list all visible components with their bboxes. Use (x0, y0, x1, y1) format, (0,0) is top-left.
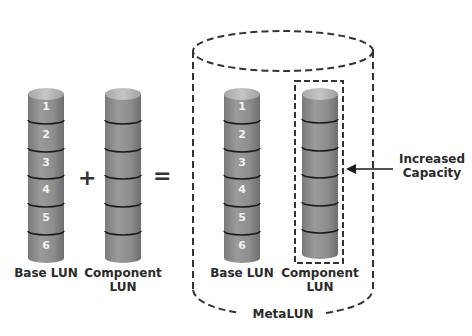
component-lun-label-line2: LUN (83, 280, 163, 294)
segment-label: 2 (224, 129, 260, 141)
metalun-component-lun-cylinder (302, 88, 338, 259)
segment-label: 3 (28, 157, 64, 169)
segment-label: 4 (224, 184, 260, 196)
plus-operator: + (78, 167, 96, 189)
callout-line2: Capacity (392, 166, 472, 180)
callout-line1: Increased (392, 152, 472, 166)
segment-label: 5 (224, 212, 260, 224)
metalun-label: MetaLUN (243, 307, 323, 321)
segment-label: 1 (28, 101, 64, 113)
metalun-base-lun-label: Base LUN (202, 266, 282, 280)
base-lun-cylinder (28, 88, 64, 263)
metalun-base-lun-cylinder (224, 88, 260, 263)
segment-label: 4 (28, 184, 64, 196)
segment-label: 6 (28, 240, 64, 252)
segment-label: 1 (224, 101, 260, 113)
segment-label: 5 (28, 212, 64, 224)
component-lun-label-line1: Component (83, 266, 163, 280)
segment-label: 3 (224, 157, 260, 169)
equals-operator: = (153, 165, 171, 187)
component-lun-cylinder (105, 88, 141, 263)
base-lun-label: Base LUN (6, 266, 86, 280)
metalun-component-lun-label-line1: Component (280, 266, 360, 280)
segment-label: 6 (224, 240, 260, 252)
metalun-component-lun-label-line2: LUN (280, 280, 360, 294)
segment-label: 2 (28, 129, 64, 141)
increased-capacity-arrow-icon (346, 164, 393, 174)
